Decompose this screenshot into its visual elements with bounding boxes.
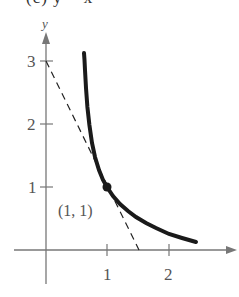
tangent-line [46, 61, 139, 250]
chart: y 1 2 1 2 3 (1, 1) [0, 0, 239, 297]
y-axis-arrow-icon [42, 32, 50, 44]
x-axis-arrow-icon [226, 246, 237, 254]
x-tick-label-2: 2 [164, 265, 173, 284]
y-tick-label-2: 2 [27, 115, 36, 134]
y-tick-label-1: 1 [28, 178, 37, 197]
x-tick-label-1: 1 [103, 265, 112, 284]
y-tick-label-3: 3 [27, 52, 36, 71]
curve [84, 53, 196, 242]
y-axis-label: y [40, 16, 48, 31]
tangent-point [103, 183, 112, 192]
point-label: (1, 1) [58, 202, 93, 220]
